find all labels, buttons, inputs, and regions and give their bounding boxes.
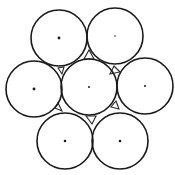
- center-dot: [144, 85, 146, 87]
- circle-bottom-right: [92, 113, 148, 169]
- center-dot: [64, 140, 67, 143]
- circle-middle-right: [117, 58, 173, 114]
- circle-middle-left: [6, 61, 62, 117]
- circle-center: [61, 59, 117, 115]
- circle-top-right: [87, 8, 143, 64]
- circles-group: [6, 8, 173, 169]
- center-dot: [33, 88, 36, 91]
- center-dot: [114, 35, 116, 37]
- center-dot: [119, 140, 122, 143]
- circle-bottom-left: [37, 113, 93, 169]
- diagram-canvas: [0, 0, 175, 175]
- circle-top-left: [31, 10, 87, 66]
- center-dot: [58, 37, 61, 40]
- gap-triangle: [58, 67, 64, 74]
- hex-circle-packing-diagram: [0, 0, 175, 175]
- gap-triangle: [86, 116, 96, 124]
- center-dot: [88, 86, 90, 88]
